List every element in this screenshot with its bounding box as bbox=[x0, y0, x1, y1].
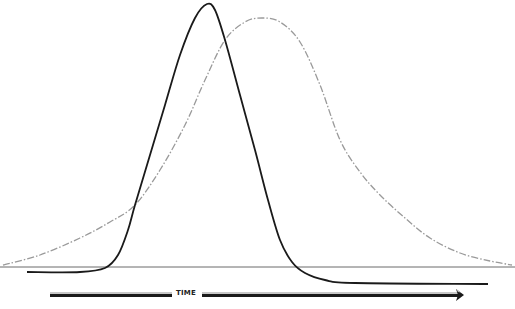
x-axis-label: TIME bbox=[176, 289, 196, 297]
chart-svg bbox=[0, 0, 515, 309]
narrow-peak-curve bbox=[27, 4, 488, 284]
time-arrow bbox=[50, 289, 464, 301]
broad-peak-curve bbox=[3, 18, 512, 265]
chart-canvas: TIME bbox=[0, 0, 515, 309]
